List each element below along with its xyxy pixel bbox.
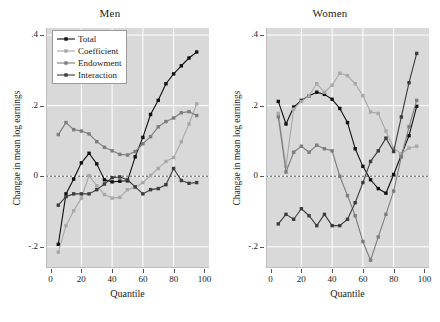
data-point <box>180 111 183 114</box>
data-point <box>57 203 60 206</box>
legend-marker-icon <box>56 57 76 69</box>
data-point <box>377 149 380 152</box>
data-point <box>118 175 121 178</box>
data-point <box>180 64 183 67</box>
x-tick-mark <box>112 269 113 273</box>
data-point <box>80 196 83 199</box>
data-point <box>95 162 98 165</box>
data-point <box>64 121 67 124</box>
legend-marker-icon <box>56 45 76 57</box>
y-tick-mark <box>260 247 264 248</box>
data-point <box>384 129 387 132</box>
data-point <box>157 125 160 128</box>
data-point <box>187 110 190 113</box>
legend-item-endowment[interactable]: Endowment <box>56 57 122 69</box>
data-point <box>149 174 152 177</box>
panel-women: Women-.20.2.4020406080100QuantileChangae… <box>220 0 440 322</box>
x-tick-mark <box>332 269 333 273</box>
data-point <box>187 56 190 59</box>
data-point <box>369 110 372 113</box>
data-point <box>361 181 364 184</box>
data-point <box>392 189 395 192</box>
data-point <box>277 115 280 118</box>
data-point <box>292 107 295 110</box>
data-point <box>164 183 167 186</box>
data-point <box>87 132 90 135</box>
data-point <box>103 193 106 196</box>
data-point <box>300 100 303 103</box>
x-tick-label: 100 <box>410 274 438 284</box>
y-tick-mark <box>40 35 44 36</box>
legend-item-interaction[interactable]: Interaction <box>56 69 122 81</box>
x-axis-label: Quantile <box>266 288 429 299</box>
data-point <box>110 196 113 199</box>
data-point <box>195 114 198 117</box>
data-point <box>95 140 98 143</box>
data-point <box>126 188 129 191</box>
data-point <box>195 181 198 184</box>
x-tick-mark <box>143 269 144 273</box>
legend-item-coefficient[interactable]: Coefficient <box>56 45 122 57</box>
y-tick-mark <box>260 176 264 177</box>
legend-label: Endowment <box>76 57 122 69</box>
data-point <box>172 116 175 119</box>
y-tick-mark <box>40 247 44 248</box>
data-point <box>80 161 83 164</box>
data-point <box>346 194 349 197</box>
panel-title: Women <box>220 7 440 19</box>
legend-item-total[interactable]: Total <box>56 33 122 45</box>
data-point <box>141 181 144 184</box>
data-point <box>103 146 106 149</box>
data-point <box>133 185 136 188</box>
data-point <box>307 214 310 217</box>
data-point <box>57 250 60 253</box>
x-tick-mark <box>394 269 395 273</box>
x-tick-mark <box>204 269 205 273</box>
data-point <box>292 151 295 154</box>
data-point <box>315 224 318 227</box>
x-tick-label: 0 <box>37 274 65 284</box>
data-point <box>72 177 75 180</box>
data-point <box>110 149 113 152</box>
data-point <box>323 91 326 94</box>
data-point <box>141 192 144 195</box>
data-point <box>315 143 318 146</box>
data-point <box>400 155 403 158</box>
data-point <box>400 115 403 118</box>
panel-title: Men <box>0 7 220 19</box>
data-point <box>149 135 152 138</box>
x-tick-mark <box>174 269 175 273</box>
data-point <box>407 146 410 149</box>
data-point <box>284 213 287 216</box>
legend-label: Coefficient <box>76 45 118 57</box>
data-point <box>307 94 310 97</box>
data-point <box>338 224 341 227</box>
data-point <box>330 98 333 101</box>
data-point <box>87 192 90 195</box>
data-point <box>346 121 349 124</box>
x-tick-label: 40 <box>98 274 126 284</box>
data-point <box>284 170 287 173</box>
data-point <box>103 182 106 185</box>
y-tick-mark <box>40 106 44 107</box>
data-point <box>110 176 113 179</box>
data-point <box>392 173 395 176</box>
data-point <box>164 82 167 85</box>
data-point <box>157 187 160 190</box>
figure-root: Men-.20.2.4020406080100QuantileChangae i… <box>0 0 440 322</box>
y-axis-label: Changae in mean log earnings <box>232 28 242 268</box>
data-point <box>164 160 167 163</box>
x-tick-label: 0 <box>257 274 285 284</box>
data-point <box>353 214 356 217</box>
data-point <box>323 147 326 150</box>
data-point <box>141 142 144 145</box>
legend: TotalCoefficientEndowmentInteraction <box>52 30 127 84</box>
plot-wrapper <box>266 28 429 268</box>
x-tick-mark <box>301 269 302 273</box>
legend-label: Total <box>76 33 96 45</box>
data-point <box>307 151 310 154</box>
data-point <box>338 175 341 178</box>
data-point <box>407 134 410 137</box>
data-point <box>72 209 75 212</box>
data-point <box>95 184 98 187</box>
